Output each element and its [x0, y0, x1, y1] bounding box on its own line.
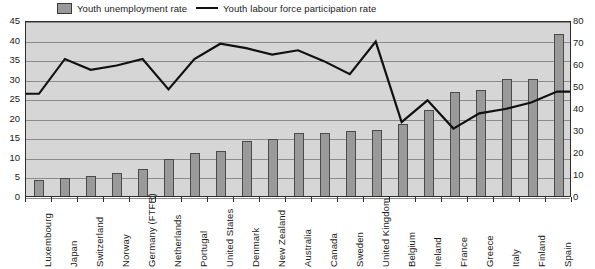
x-axis-labels: LuxembourgJapanSwitzerlandNorwayGermany …: [25, 202, 571, 269]
line-path: [26, 42, 570, 129]
x-axis-label: Portugal: [198, 231, 209, 267]
x-axis-tick: [571, 197, 572, 202]
legend-line-label: Youth labour force participation rate: [223, 3, 376, 14]
left-axis-tick: 25: [2, 94, 20, 104]
x-axis-label: Japan: [68, 241, 79, 267]
x-axis-label: Greece: [484, 235, 495, 267]
x-axis-label: Luxembourg: [42, 213, 53, 267]
x-axis-label: New Zealand: [276, 210, 287, 267]
right-axis-tick: 80: [573, 16, 593, 26]
x-axis-label: Finland: [536, 235, 547, 267]
x-axis-label: Australia: [302, 229, 313, 267]
left-axis-tick: 0: [2, 192, 20, 202]
x-axis-label: Norway: [120, 234, 131, 267]
left-axis-tick: 30: [2, 75, 20, 85]
left-axis-tick: 15: [2, 133, 20, 143]
x-axis-label: Netherlands: [172, 215, 183, 267]
left-axis: 454035302520151050: [0, 0, 20, 269]
x-axis-label: Denmark: [250, 228, 261, 267]
x-axis-label: United States: [224, 209, 235, 267]
x-axis-label: Switzerland: [94, 217, 105, 267]
right-axis-tick: 60: [573, 60, 593, 70]
right-axis-tick: 40: [573, 104, 593, 114]
right-axis-tick: 50: [573, 82, 593, 92]
right-axis-tick: 30: [573, 126, 593, 136]
right-axis: 80706050403020100: [573, 0, 595, 269]
right-axis-tick: 20: [573, 148, 593, 158]
youth-employment-chart: Youth unemployment rate Youth labour for…: [0, 0, 595, 269]
x-axis-label: Canada: [328, 233, 339, 267]
left-axis-tick: 40: [2, 36, 20, 46]
right-axis-tick: 10: [573, 170, 593, 180]
left-axis-tick: 5: [2, 172, 20, 182]
x-axis-label: Ireland: [432, 237, 443, 267]
x-axis-label: Germany (FTFR): [146, 193, 157, 267]
line-series: [26, 22, 570, 196]
left-axis-tick: 35: [2, 55, 20, 65]
x-axis-label: Spain: [562, 242, 573, 267]
left-axis-tick: 10: [2, 153, 20, 163]
left-axis-tick: 20: [2, 114, 20, 124]
x-axis-label: Belgium: [406, 232, 417, 267]
x-axis-label: Italy: [510, 249, 521, 267]
legend-bar-label: Youth unemployment rate: [77, 3, 187, 14]
legend-bar-swatch-icon: [57, 3, 72, 14]
left-axis-tick: 45: [2, 16, 20, 26]
legend-item-bar: Youth unemployment rate: [57, 0, 187, 16]
chart-legend: Youth unemployment rate Youth labour for…: [0, 0, 595, 16]
x-axis-label: United Kingdom: [380, 198, 391, 267]
right-axis-tick: 70: [573, 38, 593, 48]
x-axis-label: France: [458, 237, 469, 267]
plot-area: [25, 21, 571, 197]
legend-item-line: Youth labour force participation rate: [196, 0, 376, 16]
right-axis-tick: 0: [573, 192, 593, 202]
x-axis-label: Sweden: [354, 232, 365, 267]
legend-line-swatch-icon: [196, 7, 218, 9]
